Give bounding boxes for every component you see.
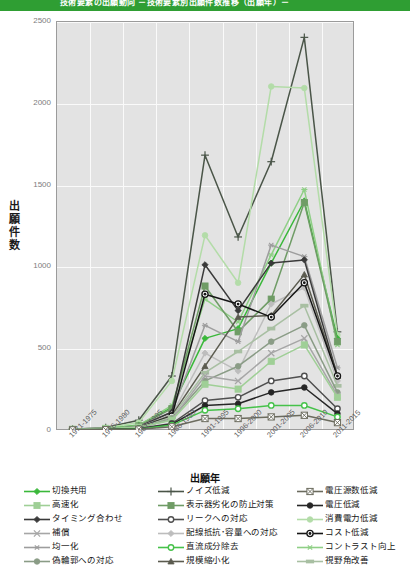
y-tick-label: 2500: [11, 17, 51, 25]
legend-item[interactable]: ノイズ低減: [156, 484, 295, 497]
legend-item[interactable]: コスト低減: [295, 526, 410, 539]
legend-item[interactable]: 電圧低減: [295, 498, 410, 511]
legend-item-label: 規模縮小化: [186, 554, 230, 566]
legend-item-label: 配線抵抗･容量への対応: [186, 526, 278, 539]
legend-item[interactable]: コントラスト向上: [295, 540, 410, 553]
legend-item-label: リークへの対応: [186, 512, 248, 525]
chart-legend: 切換共用高速化タイミング合わせ補償均一化偽輪郭への対応 ノイズ低減表示器劣化の防…: [0, 484, 410, 564]
legend-item[interactable]: 高速化: [22, 498, 150, 511]
circle-filled-icon: [295, 498, 325, 511]
square-light-icon: [22, 498, 52, 511]
legend-item[interactable]: 配線抵抗･容量への対応: [156, 526, 295, 539]
legend-item-label: 電圧低減: [325, 498, 360, 511]
bar-pale-icon: [295, 554, 325, 566]
chart-page: 技術要素の出願動向 －技術要素別出願件数推移（出願年）－ 出願件数 050010…: [0, 0, 410, 566]
square-green-icon: [156, 498, 186, 511]
legend-item-label: 補償: [52, 526, 70, 539]
legend-item-label: 高速化: [52, 498, 78, 511]
legend-item-label: 消費電力低減: [325, 512, 378, 525]
bullseye-icon: [295, 526, 325, 539]
y-tick-label: 0: [11, 426, 51, 434]
legend-item[interactable]: 規模縮小化: [156, 554, 295, 566]
diamond-pale-icon: [156, 526, 186, 539]
legend-item-label: 偽輪郭への対応: [52, 554, 114, 566]
legend-item[interactable]: 偽輪郭への対応: [22, 554, 150, 566]
legend-item[interactable]: 視野角改善: [295, 554, 410, 566]
circle-grgray-icon: [22, 554, 52, 566]
legend-column-3: 電圧源数低減電圧低減消費電力低減コスト低減コントラスト向上視野角改善: [295, 484, 410, 564]
legend-item-label: 直流成分除去: [186, 540, 239, 553]
y-tick-label: 500: [11, 344, 51, 352]
legend-item[interactable]: 電圧源数低減: [295, 484, 410, 497]
series-0: [69, 33, 342, 430]
legend-item-label: 表示器劣化の防止対策: [186, 498, 274, 511]
series-layer: [56, 21, 354, 430]
x-axis-title: 出願年: [0, 470, 410, 485]
legend-item-label: コスト低減: [325, 526, 369, 539]
legend-item[interactable]: 切換共用: [22, 484, 150, 497]
legend-item-label: ノイズ低減: [186, 484, 230, 497]
asterisk-green-icon: [295, 540, 325, 553]
legend-item[interactable]: 補償: [22, 526, 150, 539]
circle-open-gr-icon: [156, 540, 186, 553]
legend-column-2: ノイズ低減表示器劣化の防止対策リークへの対応配線抵抗･容量への対応直流成分除去規…: [150, 484, 295, 564]
page-banner: 技術要素の出願動向 －技術要素別出願件数推移（出願年）－: [0, 0, 410, 11]
y-tick-label: 2000: [11, 99, 51, 107]
legend-column-1: 切換共用高速化タイミング合わせ補償均一化偽輪郭への対応: [0, 484, 150, 564]
legend-item[interactable]: タイミング合わせ: [22, 512, 150, 525]
legend-item[interactable]: 均一化: [22, 540, 150, 553]
triangle-icon: [156, 554, 186, 566]
legend-item[interactable]: 表示器劣化の防止対策: [156, 498, 295, 511]
legend-item[interactable]: リークへの対応: [156, 512, 295, 525]
circle-open-icon: [156, 512, 186, 525]
x-gray-icon: [22, 526, 52, 539]
legend-item-label: 電圧源数低減: [325, 484, 378, 497]
legend-item-label: タイミング合わせ: [52, 512, 122, 525]
circle-pale-icon: [295, 512, 325, 525]
y-axis-title: 出願件数: [6, 200, 22, 252]
legend-item-label: 視野角改善: [325, 554, 369, 566]
y-tick-label: 1000: [11, 262, 51, 270]
legend-item-label: 切換共用: [52, 484, 87, 497]
legend-item-label: コントラスト向上: [325, 540, 395, 553]
y-tick-label: 1500: [11, 181, 51, 189]
asterisk-icon: [22, 540, 52, 553]
legend-item-label: 均一化: [52, 540, 78, 553]
banner-title: 技術要素の出願動向 －技術要素別出願件数推移（出願年）－: [60, 0, 289, 7]
diamond-dark-icon: [22, 512, 52, 525]
diamond-icon: [22, 484, 52, 497]
plus-icon: [156, 484, 186, 497]
crossbox-icon: [295, 484, 325, 497]
legend-item[interactable]: 消費電力低減: [295, 512, 410, 525]
legend-item[interactable]: 直流成分除去: [156, 540, 295, 553]
